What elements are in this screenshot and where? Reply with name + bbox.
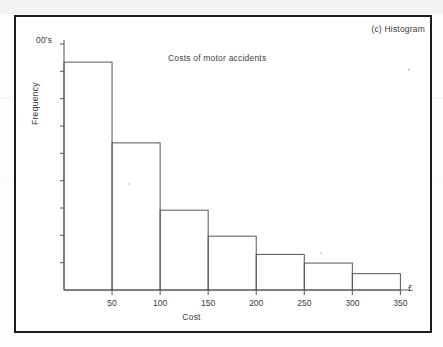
x-axis-tick-label: 200 — [249, 298, 263, 308]
y-axis-ticks — [60, 44, 64, 263]
x-axis-tick-label: 350 — [393, 298, 407, 308]
histogram-bar — [160, 210, 208, 290]
x-axis-tick-label: 150 — [201, 298, 215, 308]
x-axis-ticks: 50100150200250300350 — [107, 290, 407, 308]
x-axis-tick-label: 250 — [297, 298, 311, 308]
histogram-bar — [208, 236, 256, 290]
histogram-bar — [112, 143, 160, 290]
histogram-bars — [64, 62, 400, 290]
histogram-plot: 50100150200250300350 — [0, 0, 443, 347]
x-axis-tick-label: 100 — [153, 298, 167, 308]
axes-group — [64, 40, 410, 290]
scan-page-background: (c) Histogram Costs of motor accidents 0… — [0, 0, 443, 347]
histogram-bar — [304, 263, 352, 290]
histogram-bar — [256, 254, 304, 290]
histogram-bar — [352, 274, 400, 290]
histogram-bar — [64, 62, 112, 290]
x-axis-tick-label: 300 — [345, 298, 359, 308]
x-axis-tick-label: 50 — [107, 298, 117, 308]
